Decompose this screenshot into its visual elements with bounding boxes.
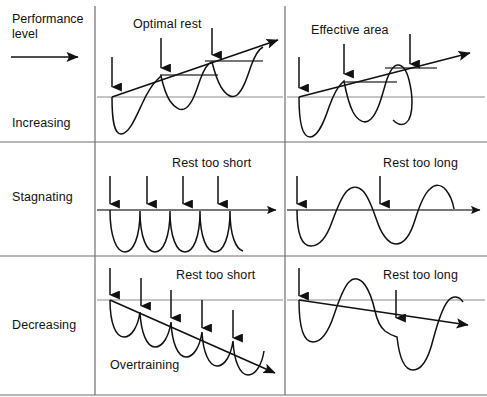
y-axis-label-line1: Performance — [12, 12, 84, 27]
annotation-rest-too-long-mid: Rest too long — [383, 156, 458, 170]
row-label-stagnating: Stagnating — [12, 190, 73, 204]
performance-curve-increasing-left — [112, 47, 263, 134]
y-axis-label: Performance level — [12, 12, 84, 42]
diagram-canvas — [0, 0, 487, 397]
annotation-rest-too-long-bottom: Rest too long — [383, 268, 458, 282]
panel-increasing-right — [287, 34, 485, 137]
panel-stagnating-left — [97, 176, 276, 252]
trend-line-decreasing-right — [299, 300, 468, 325]
row-label-increasing: Increasing — [12, 116, 71, 130]
annotation-optimal-rest: Optimal rest — [133, 17, 202, 31]
panel-decreasing-right — [287, 268, 485, 370]
performance-curve-stagnating-right — [297, 185, 454, 246]
annotation-rest-too-short-bottom: Rest too short — [176, 268, 255, 282]
performance-curve-decreasing-right — [299, 279, 463, 370]
trend-line-increasing-left — [112, 40, 278, 97]
annotation-overtraining: Overtraining — [110, 358, 179, 372]
y-axis-label-line2: level — [12, 27, 84, 42]
performance-curve-stagnating-left — [110, 210, 243, 252]
supercompensation-diagram: Performance level Increasing Stagnating … — [0, 0, 487, 397]
grid-lines — [0, 6, 487, 395]
trend-line-increasing-right — [299, 53, 470, 97]
annotation-effective-area: Effective area — [311, 23, 389, 37]
annotation-rest-too-short-mid: Rest too short — [172, 156, 251, 170]
panel-stagnating-right — [287, 176, 480, 246]
row-label-decreasing: Decreasing — [12, 318, 76, 332]
panel-increasing-left — [97, 28, 283, 134]
performance-curve-increasing-right — [299, 65, 412, 137]
